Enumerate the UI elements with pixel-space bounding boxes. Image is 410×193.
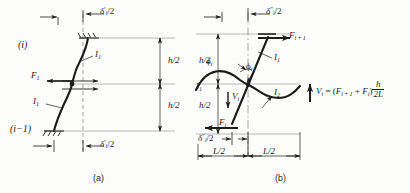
delta-label-top-a: δ′i/2 xyxy=(100,6,114,17)
shear-equation-b: Vi = (Fi + 1 + Fi)h2L xyxy=(316,80,384,100)
rotation-right-label-b: ϕi xyxy=(246,62,252,72)
inertia-label-upper-b: I1 xyxy=(274,53,280,63)
node-marker-a xyxy=(70,82,75,87)
inclined-column-b xyxy=(232,37,268,124)
dim-label-upper-a: h/2 xyxy=(168,56,180,65)
delta-label-top-b: δ″i/2 xyxy=(266,6,282,17)
panel-a-linework xyxy=(33,10,175,152)
inertia-label-lower-b: I2 xyxy=(274,88,280,98)
engineering-figure: δ′i/2 (i) F1 I1 I1 (i−1) h/2 h/2 δ′i/2 (… xyxy=(0,0,410,193)
caption-b: (b) xyxy=(275,173,286,183)
dim-label-lower-b: h/2 xyxy=(199,101,211,110)
inertia-label-lower-a: I1 xyxy=(33,97,39,107)
leader-inertia-lower-a xyxy=(46,104,62,108)
dim-label-upper-b: h/2 xyxy=(199,56,211,65)
inertia-label-upper-a: I1 xyxy=(95,50,101,60)
force-bottom-label-b: Fi xyxy=(219,118,226,128)
shear-label-b: Vi xyxy=(232,92,239,102)
force-label-a: F1 xyxy=(31,71,40,81)
story-level-upper-a: (i) xyxy=(18,40,27,50)
story-level-lower-a: (i−1) xyxy=(10,124,31,134)
force-top-label-b: Fi + 1 xyxy=(289,31,306,41)
dim-label-lower-a: h/2 xyxy=(168,101,180,110)
delta-label-bottom-b: δ″i/2 xyxy=(198,133,214,144)
span-label-left-b: L/2 xyxy=(213,147,225,156)
span-label-right-b: L/2 xyxy=(263,147,275,156)
leader-inertia-lower-b xyxy=(262,96,272,108)
inertia-label-left-b: I1 xyxy=(196,82,202,92)
joint-node-b xyxy=(246,83,250,87)
caption-a: (a) xyxy=(93,173,104,183)
delta-label-bottom-a: δ′i/2 xyxy=(100,139,114,150)
